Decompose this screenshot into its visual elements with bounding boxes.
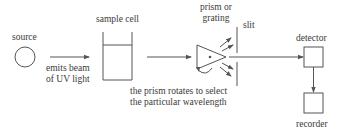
prism-note-line2: the particular wavelength [130, 97, 227, 108]
source-label: source [12, 32, 37, 43]
prism-pivot-dot [209, 56, 212, 59]
uv-spectrometer-diagram: source emits beam of UV light sample cel… [0, 0, 350, 135]
rotation-arrow-icon [198, 68, 212, 73]
sample-cell-label: sample cell [96, 14, 139, 25]
ray-down-2 [220, 67, 231, 76]
beam-annotation-line1: emits beam [46, 63, 90, 74]
prism-label-line2: grating [196, 13, 236, 24]
ray-up-2 [222, 45, 233, 51]
prism-triangle-icon [197, 45, 226, 69]
beam-annotation-line2: of UV light [46, 74, 90, 85]
prism-note-line1: the prism rotates to select [130, 86, 227, 97]
source-circle-icon [15, 47, 35, 67]
detector-box-icon [304, 47, 323, 67]
detector-label: detector [296, 33, 327, 44]
sample-cell-node [103, 32, 132, 80]
recorder-label: recorder [296, 119, 328, 130]
sample-cell-container-icon [103, 32, 132, 80]
prism-label-line1: prism or [196, 2, 236, 13]
slit-label: slit [243, 20, 255, 31]
source-node [15, 47, 35, 67]
ray-down-1 [222, 63, 233, 69]
prism-node [196, 38, 233, 76]
recorder-box-icon [304, 93, 323, 113]
ray-up-1 [220, 38, 231, 47]
